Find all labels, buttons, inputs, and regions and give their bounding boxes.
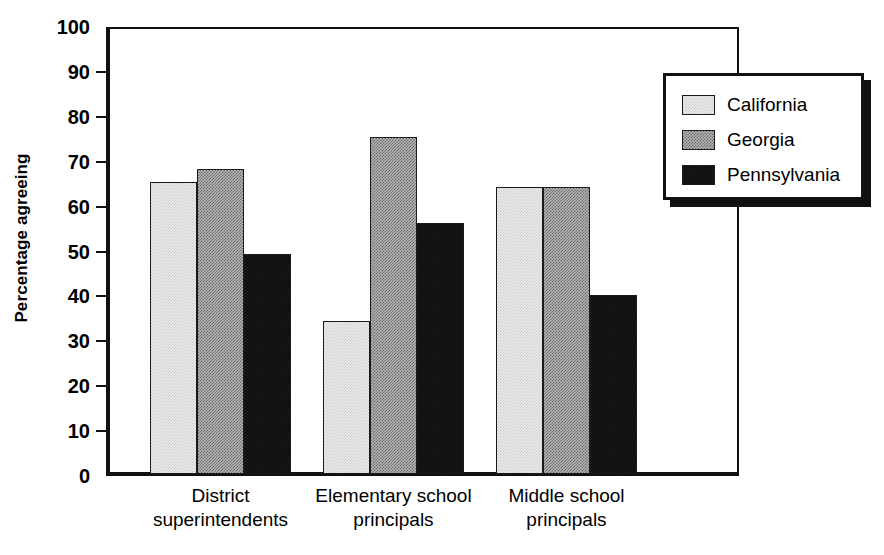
y-tick-label-20: 20 xyxy=(26,376,90,396)
bar-pennsylvania-group-2[interactable] xyxy=(417,223,464,474)
y-tick-label-60: 60 xyxy=(26,197,90,217)
bar-georgia-group-1[interactable] xyxy=(197,169,244,474)
legend-item-georgia[interactable]: Georgia xyxy=(682,123,861,156)
x-category-label-3-line-1: Middle school xyxy=(447,484,687,508)
legend-box: CaliforniaGeorgiaPennsylvania xyxy=(663,73,864,200)
chart-legend: CaliforniaGeorgiaPennsylvania xyxy=(663,73,871,207)
y-tick-label-50: 50 xyxy=(26,242,90,262)
legend-swatch-california xyxy=(682,95,715,115)
legend-label-pennsylvania: Pennsylvania xyxy=(727,165,840,184)
x-category-label-3: Middle schoolprincipals xyxy=(447,484,687,531)
x-category-label-3-line-2: principals xyxy=(447,508,687,532)
y-tick-label-100: 100 xyxy=(26,17,90,37)
legend-label-georgia: Georgia xyxy=(727,130,795,149)
bar-california-group-2[interactable] xyxy=(323,321,370,474)
y-tick-label-70: 70 xyxy=(26,152,90,172)
bar-group-container xyxy=(110,27,737,474)
y-tick-label-10: 10 xyxy=(26,421,90,441)
y-tick-label-80: 80 xyxy=(26,107,90,127)
y-tick-label-30: 30 xyxy=(26,331,90,351)
legend-item-california[interactable]: California xyxy=(682,88,861,121)
bar-chart-figure: Percentage agreeing 10090807060504030201… xyxy=(0,0,884,555)
legend-swatch-georgia xyxy=(682,130,715,150)
legend-swatch-pennsylvania xyxy=(682,165,715,185)
bar-georgia-group-3[interactable] xyxy=(543,187,590,474)
bar-georgia-group-2[interactable] xyxy=(370,137,417,474)
bar-california-group-1[interactable] xyxy=(150,182,197,474)
legend-label-california: California xyxy=(727,95,807,114)
bar-california-group-3[interactable] xyxy=(496,187,543,474)
y-tick-label-0: 0 xyxy=(26,466,90,486)
bar-pennsylvania-group-1[interactable] xyxy=(244,254,291,474)
bar-pennsylvania-group-3[interactable] xyxy=(590,295,637,474)
legend-item-pennsylvania[interactable]: Pennsylvania xyxy=(682,158,861,191)
y-tick-label-90: 90 xyxy=(26,62,90,82)
y-tick-label-40: 40 xyxy=(26,286,90,306)
